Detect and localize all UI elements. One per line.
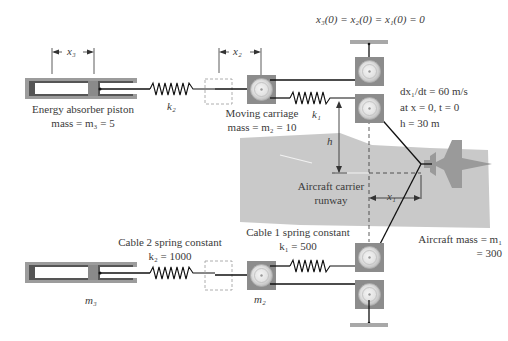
arresting-gear-diagram bbox=[0, 0, 508, 341]
cable2-value: k₂ = 1000 bbox=[110, 250, 230, 263]
runway-label-line1: Aircraft carrier bbox=[286, 180, 376, 193]
spring-k2-top bbox=[150, 83, 215, 95]
ground-anchor-bottom bbox=[350, 323, 388, 327]
pulley-top-lower bbox=[355, 94, 384, 123]
spring-label-k2-top: k₂ bbox=[167, 100, 176, 113]
spring-k1-bottom bbox=[290, 260, 360, 272]
carriage-mass-top: mass = m₂ = 10 bbox=[210, 121, 314, 134]
piston-label-top: Energy absorber piston bbox=[18, 103, 148, 116]
piston-mass-bottom: m₃ bbox=[85, 294, 97, 307]
energy-absorber-piston-top bbox=[25, 78, 150, 99]
runway-label-line2: runway bbox=[286, 194, 376, 207]
cable1-value: k₁ = 500 bbox=[238, 240, 358, 253]
cable2-label: Cable 2 spring constant bbox=[110, 236, 230, 249]
carriage-initial-position-top bbox=[205, 79, 232, 104]
spring-k1-top bbox=[290, 92, 360, 104]
aircraft-velocity: dx₁/dt = 60 m/s bbox=[400, 85, 468, 98]
carriage-label-top: Moving carriage bbox=[210, 107, 314, 120]
dim-label-h: h bbox=[327, 135, 333, 148]
height-value: h = 30 m bbox=[400, 117, 440, 130]
spring-label-k1-top: k₁ bbox=[312, 108, 321, 121]
aircraft-mass-label: Aircraft mass = m₁ bbox=[390, 233, 502, 246]
pulley-bottom-upper bbox=[355, 243, 384, 272]
pulley-top-fixed bbox=[355, 57, 384, 86]
carriage-mass-bottom: m₂ bbox=[254, 293, 266, 306]
cable1-label: Cable 1 spring constant bbox=[238, 226, 358, 239]
piston-mass-top: mass = m₃ = 5 bbox=[18, 117, 148, 130]
dim-label-x3: x₃ bbox=[67, 45, 76, 58]
aircraft-mass-value: = 300 bbox=[390, 247, 502, 260]
dim-label-x2: x₂ bbox=[233, 45, 242, 58]
dim-label-x1: x₁ bbox=[387, 190, 396, 203]
aircraft-initial-time: at x = 0, t = 0 bbox=[400, 101, 459, 114]
initial-condition: x₃(0) = x₂(0) = x₁(0) = 0 bbox=[316, 13, 425, 26]
energy-absorber-piston-bottom bbox=[25, 262, 150, 283]
